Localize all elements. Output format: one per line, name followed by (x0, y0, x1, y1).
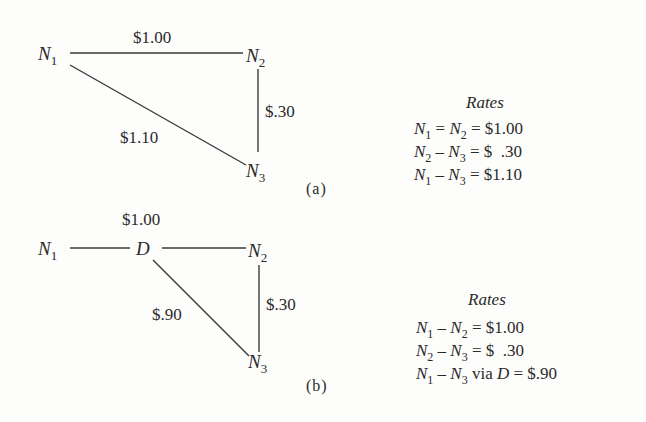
rates-row-b-3: N1 – N3 via D = $.90 (416, 365, 557, 386)
edge-label-b-n1-d-n2: $1.00 (122, 211, 160, 228)
rates-title-b: Rates (468, 291, 506, 308)
node-a-n1: N1 (38, 44, 57, 67)
node-b-n1: N1 (38, 239, 57, 262)
edge-label-b-d-n3: $.90 (152, 306, 182, 323)
node-a-n3: N3 (246, 161, 265, 184)
diagram-lines (0, 0, 646, 422)
rates-row-a-1: N1 = N2 = $1.00 (414, 120, 523, 141)
node-b-n2: N2 (248, 241, 267, 264)
rates-row-b-1: N1 – N2 = $1.00 (416, 319, 524, 340)
edge-label-a-n2-n3: $.30 (265, 103, 295, 120)
rates-row-a-2: N2 – N3 = $ .30 (414, 143, 522, 164)
rates-row-b-2: N2 – N3 = $ .30 (416, 342, 524, 363)
node-b-n3: N3 (248, 352, 267, 375)
edge-label-a-n1-n3: $1.10 (120, 129, 158, 146)
panel-tag-a: (a) (306, 181, 327, 197)
rates-title-a: Rates (466, 94, 504, 111)
edge-label-a-n1-n2: $1.00 (133, 29, 171, 46)
rates-row-a-3: N1 – N3 = $1.10 (414, 166, 522, 187)
panel-tag-b: (b) (306, 378, 328, 394)
node-b-d: D (136, 239, 150, 258)
edge-label-b-n2-n3: $.30 (266, 296, 296, 313)
edge-a-n1-n3 (70, 65, 246, 165)
node-a-n2: N2 (246, 46, 265, 69)
